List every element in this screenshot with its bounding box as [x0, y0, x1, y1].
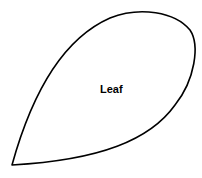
- diagram-canvas: Leaf: [0, 0, 202, 178]
- leaf-label: Leaf: [100, 83, 123, 95]
